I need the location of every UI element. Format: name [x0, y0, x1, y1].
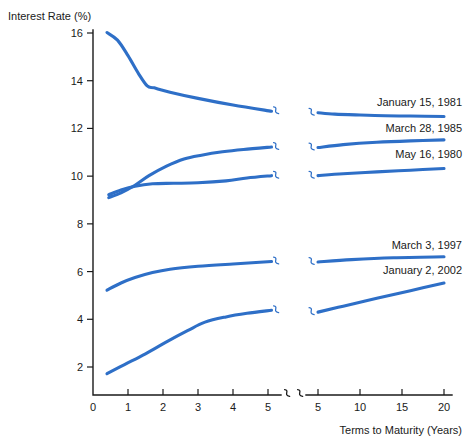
series-label: March 3, 1997 [392, 239, 462, 251]
axis-break-squiggle [274, 107, 279, 114]
series-line-left [107, 33, 272, 112]
series-line-right [318, 113, 444, 117]
axis-break-squiggle [274, 306, 279, 313]
x-tick-label: 3 [195, 401, 201, 413]
x-tick-label: 15 [396, 401, 408, 413]
x-tick-label: 10 [354, 401, 366, 413]
x-tick-label: 2 [160, 401, 166, 413]
x-tick-label: 1 [125, 401, 131, 413]
y-tick-label: 14 [71, 75, 83, 87]
axis-break-squiggle [274, 143, 279, 150]
y-tick-label: 6 [77, 266, 83, 278]
series-line-left [109, 147, 272, 198]
x-tick-label: 20 [438, 401, 450, 413]
axis-break-squiggle [309, 108, 314, 115]
axis-break-squiggle [309, 308, 314, 315]
axis-break-marks-group [274, 107, 315, 397]
yield-curve-chart: 2468101214160123455101520 January 15, 19… [0, 0, 471, 443]
tick-labels-group: 2468101214160123455101520 [71, 27, 450, 413]
series-line-left [107, 262, 272, 291]
series-label: May 16, 1980 [395, 148, 462, 160]
y-axis-title: Interest Rate (%) [8, 10, 91, 22]
x-tick-label: 5 [265, 401, 271, 413]
y-tick-label: 16 [71, 27, 83, 39]
series-curves-group [107, 33, 444, 374]
series-label: January 15, 1981 [377, 96, 462, 108]
series-line-left [107, 310, 272, 373]
y-tick-label: 4 [77, 313, 83, 325]
x-tick-label: 5 [315, 401, 321, 413]
axis-break-squiggle [309, 171, 314, 178]
series-line-right [318, 140, 444, 148]
axis-break-squiggle [274, 257, 279, 264]
x-tick-label: 4 [230, 401, 236, 413]
series-line-right [318, 283, 444, 312]
y-tick-label: 8 [77, 218, 83, 230]
y-tick-label: 2 [77, 361, 83, 373]
y-tick-label: 10 [71, 170, 83, 182]
series-labels-group: January 15, 1981March 28, 1985May 16, 19… [377, 96, 462, 276]
series-line-right [318, 169, 444, 176]
series-line-right [318, 257, 444, 262]
series-line-left [109, 176, 272, 195]
chart-canvas: 2468101214160123455101520 January 15, 19… [0, 0, 471, 443]
axis-break-squiggle [309, 143, 314, 150]
ticks-group [87, 33, 444, 395]
x-tick-label: 0 [90, 401, 96, 413]
x-axis-title: Terms to Maturity (Years) [340, 424, 462, 436]
axis-break-squiggle [298, 390, 303, 397]
left-axis-lines [93, 30, 281, 395]
series-label: January 2, 2002 [383, 264, 462, 276]
axis-break-squiggle [274, 171, 279, 178]
series-label: March 28, 1985 [386, 122, 462, 134]
y-tick-label: 12 [71, 122, 83, 134]
axis-break-squiggle [309, 258, 314, 265]
axis-break-squiggle [285, 390, 290, 397]
